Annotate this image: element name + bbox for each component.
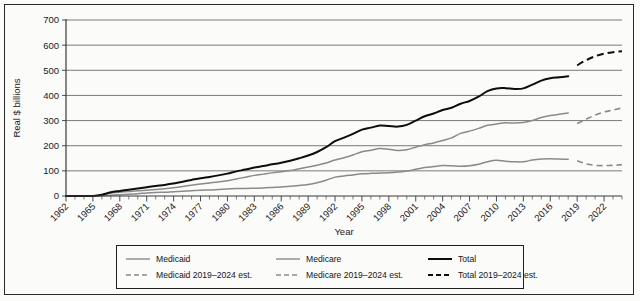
x-tick-label: 1971 bbox=[128, 201, 151, 224]
chart-page: 0100200300400500600700 19621965196819711… bbox=[0, 0, 640, 301]
x-tick-label: 1983 bbox=[236, 201, 259, 224]
x-tick-label: 2016 bbox=[532, 201, 555, 224]
series-line-medicare bbox=[66, 113, 568, 196]
y-tick-label: 400 bbox=[43, 90, 59, 101]
x-tick-label: 1974 bbox=[155, 201, 178, 224]
legend-swatch-solid bbox=[125, 254, 151, 264]
x-axis-ticks-group: 1962196519681971197419771980198319861989… bbox=[48, 196, 622, 223]
legend-swatch-solid bbox=[275, 254, 301, 264]
data-series-group bbox=[66, 51, 622, 196]
series-line-medicare-est bbox=[577, 108, 622, 124]
legend-label: Total bbox=[458, 254, 476, 264]
legend-item: Medicaid bbox=[125, 254, 275, 264]
x-tick-label: 1962 bbox=[48, 201, 71, 224]
x-tick-label: 1968 bbox=[101, 201, 124, 224]
y-axis-ticks-group: 0100200300400500600700 bbox=[43, 14, 66, 201]
legend-item: Medicaid 2019–2024 est. bbox=[125, 270, 275, 280]
x-tick-label: 1992 bbox=[317, 201, 340, 224]
x-tick-label: 1977 bbox=[182, 201, 205, 224]
legend-item: Total bbox=[427, 254, 538, 264]
legend-item: Medicare bbox=[275, 254, 427, 264]
y-tick-label: 200 bbox=[43, 140, 59, 151]
x-tick-label: 2013 bbox=[505, 201, 528, 224]
x-tick-label: 2007 bbox=[451, 201, 474, 224]
legend-swatch-dashed bbox=[125, 270, 151, 280]
x-tick-label: 1986 bbox=[263, 201, 286, 224]
legend-swatch-dashed bbox=[275, 270, 301, 280]
y-axis-title: Real $ billions bbox=[11, 78, 22, 137]
x-tick-label: 2001 bbox=[397, 201, 420, 224]
x-tick-label: 2022 bbox=[586, 201, 609, 224]
x-tick-label: 1995 bbox=[344, 201, 367, 224]
x-axis-title: Year bbox=[334, 226, 353, 237]
series-line-medicaid-est bbox=[577, 161, 622, 166]
series-line-total-est bbox=[577, 51, 622, 65]
legend-label: Medicare 2019–2024 est. bbox=[306, 270, 403, 280]
series-line-total bbox=[66, 76, 568, 196]
y-tick-label: 300 bbox=[43, 115, 59, 126]
x-tick-label: 1980 bbox=[209, 201, 232, 224]
legend-swatch-dashed bbox=[427, 270, 453, 280]
x-tick-label: 1965 bbox=[75, 201, 98, 224]
legend-swatch-solid bbox=[427, 254, 453, 264]
x-tick-label: 1998 bbox=[371, 201, 394, 224]
legend-item: Total 2019–2024 est. bbox=[427, 270, 538, 280]
x-tick-label: 2004 bbox=[424, 201, 447, 224]
legend-label: Medicaid bbox=[156, 254, 190, 264]
y-tick-label: 600 bbox=[43, 40, 59, 51]
x-tick-label: 2010 bbox=[478, 201, 501, 224]
x-tick-label: 1989 bbox=[290, 201, 313, 224]
legend-item: Medicare 2019–2024 est. bbox=[275, 270, 427, 280]
y-tick-label: 500 bbox=[43, 65, 59, 76]
y-tick-label: 0 bbox=[54, 190, 59, 201]
gridlines-group bbox=[66, 20, 622, 171]
legend-label: Medicaid 2019–2024 est. bbox=[156, 270, 252, 280]
legend-label: Total 2019–2024 est. bbox=[458, 270, 538, 280]
y-tick-label: 100 bbox=[43, 165, 59, 176]
legend-label: Medicare bbox=[306, 254, 341, 264]
legend-grid: MedicaidMedicareTotalMedicaid 2019–2024 … bbox=[125, 251, 515, 283]
x-tick-label: 2019 bbox=[559, 201, 582, 224]
legend: MedicaidMedicareTotalMedicaid 2019–2024 … bbox=[116, 245, 524, 289]
y-tick-label: 700 bbox=[43, 14, 59, 25]
